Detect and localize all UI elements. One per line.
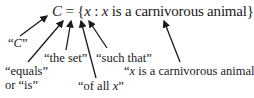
- label-predicate: “x is a carnivorous animal”: [124, 64, 254, 78]
- arrow-predicate: [164, 21, 180, 62]
- arrow-such-that: [89, 21, 107, 48]
- label-c: “C”: [8, 36, 27, 50]
- arrow-of-all: [81, 21, 96, 78]
- label-the-set: “the set”: [44, 51, 87, 65]
- arrow-c: [20, 16, 47, 36]
- label-such-that: “such that”: [96, 51, 152, 65]
- label-equals: “equals” or “is”: [5, 64, 48, 92]
- label-of-all-x: “of all x”: [78, 79, 124, 93]
- arrow-the-set: [66, 21, 71, 50]
